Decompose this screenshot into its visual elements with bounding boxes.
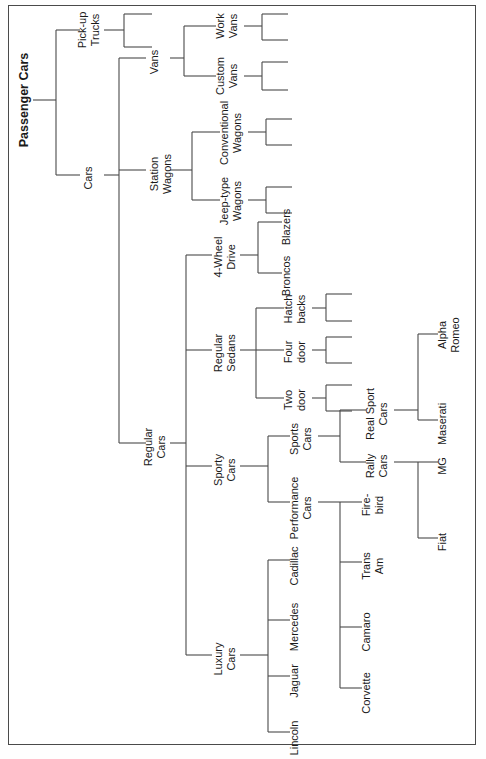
node-label-sporty-cars-line1: Sporty	[212, 454, 224, 486]
node-label-real-sport-cars-line1: Real Sport	[364, 388, 376, 440]
node-label-firebird-line1: Fire-	[360, 493, 372, 516]
node-label-station-wagons-line1: Station	[148, 157, 160, 191]
node-label-sports-cars-line2: Cars	[301, 427, 313, 451]
node-label-four-door-line1: Four	[282, 340, 294, 363]
tree-diagram-svg: Passenger Cars Pick-up Trucks Cars Vans …	[0, 0, 486, 759]
node-label-regular-sedans-line1: Regular	[212, 333, 224, 372]
node-label-passenger-cars: Passenger Cars	[17, 53, 31, 148]
node-label-mercedes: Mercedes	[288, 602, 300, 651]
node-label-corvette: Corvette	[360, 672, 372, 714]
labels-layer: Passenger Cars Pick-up Trucks Cars Vans …	[17, 12, 461, 756]
node-label-alpha-romeo-line2: Romeo	[449, 317, 461, 352]
node-label-custom-vans-line2: Vans	[227, 63, 239, 88]
node-label-maserati: Maserati	[436, 403, 448, 445]
node-label-performance-cars-line1: Performance	[288, 477, 300, 540]
node-label-trans-am-line2: Am	[373, 558, 385, 575]
node-label-real-sport-cars-line2: Cars	[377, 402, 389, 426]
node-label-custom-vans-line1: Custom	[214, 57, 226, 95]
node-label-pickup-trucks-line1: Pick-up	[76, 12, 88, 49]
node-label-two-door-line2: door	[295, 389, 307, 411]
node-label-performance-cars-line2: Cars	[301, 496, 313, 520]
node-label-mg: MG	[436, 457, 448, 475]
node-label-sports-cars-line1: Sports	[288, 423, 300, 455]
node-label-broncos: Broncos	[280, 255, 292, 296]
node-label-regular-cars-line1: Regular	[142, 427, 154, 466]
node-label-cars: Cars	[82, 166, 94, 190]
node-label-blazers: Blazers	[280, 208, 292, 245]
node-label-work-vans-line1: Work	[214, 13, 226, 39]
node-label-lincoln: Lincoln	[288, 721, 300, 756]
node-label-sporty-cars-line2: Cars	[225, 458, 237, 482]
node-label-luxury-cars-line1: Luxury	[212, 642, 224, 676]
node-label-jeep-type-wagons-line2: Wagons	[231, 181, 243, 221]
node-label-hatchbacks-line2: backs	[295, 294, 307, 323]
node-label-cadillac: Cadillac	[288, 546, 300, 586]
node-label-luxury-cars-line2: Cars	[225, 647, 237, 671]
node-label-two-door-line1: Two	[282, 390, 294, 410]
node-label-jaguar: Jaguar	[288, 664, 300, 698]
node-label-trans-am-line1: Trans	[360, 552, 372, 580]
node-label-conventional-wagons-line2: Wagons	[231, 113, 243, 153]
node-label-rally-cars-line2: Cars	[377, 454, 389, 478]
node-label-4-wheel-drive-line1: 4-Wheel	[212, 237, 224, 278]
node-label-regular-cars-line2: Cars	[155, 435, 167, 459]
node-label-four-door-line2: door	[295, 341, 307, 363]
diagram-page: Passenger Cars Pick-up Trucks Cars Vans …	[0, 0, 486, 759]
node-label-regular-sedans-line2: Sedans	[225, 334, 237, 372]
node-label-hatchbacks-line1: Hatch	[282, 295, 294, 324]
node-label-station-wagons-line2: Wagons	[161, 154, 173, 194]
node-label-jeep-type-wagons-line1: Jeep-type	[218, 177, 230, 225]
node-label-fiat: Fiat	[436, 533, 448, 551]
node-label-camaro: Camaro	[360, 612, 372, 651]
node-label-work-vans-line2: Vans	[227, 13, 239, 38]
node-label-firebird-line2: bird	[373, 496, 385, 514]
node-label-alpha-romeo-line1: Alpha	[436, 320, 448, 349]
node-label-vans: Vans	[148, 49, 160, 74]
node-label-4-wheel-drive-line2: Drive	[225, 244, 237, 270]
node-label-conventional-wagons-line1: Conventional	[218, 101, 230, 165]
node-label-pickup-trucks-line2: Trucks	[89, 13, 101, 46]
node-label-rally-cars-line1: Rally	[364, 453, 376, 478]
